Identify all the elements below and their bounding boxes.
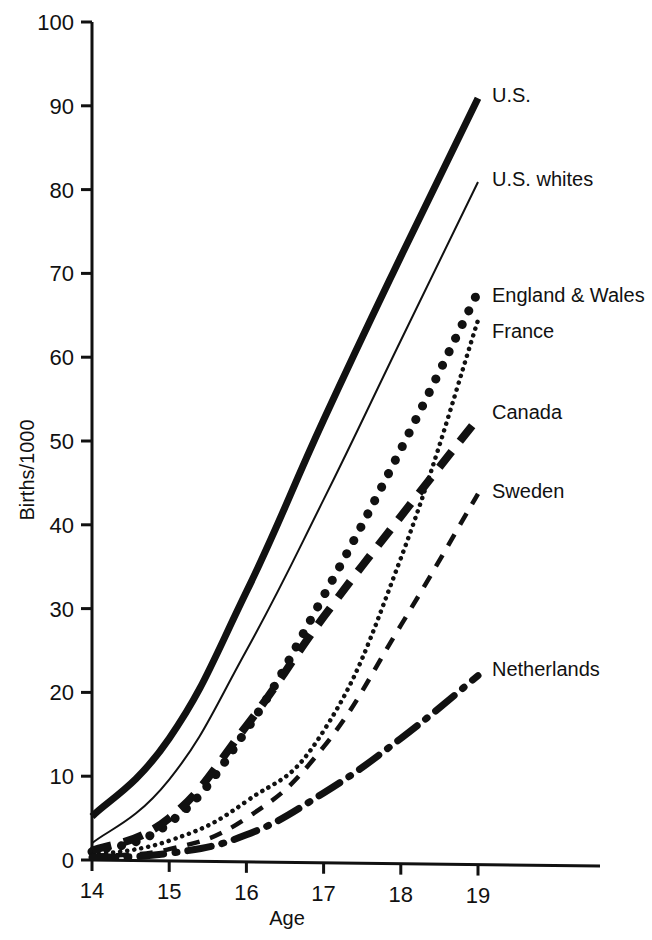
series-labels-group: U.S.U.S. whitesEngland & WalesFranceCana… xyxy=(492,84,645,680)
y-axis-ticks xyxy=(81,22,92,860)
y-tick-label: 50 xyxy=(50,429,74,454)
x-tick-label: 18 xyxy=(389,882,413,907)
y-tick-label: 90 xyxy=(50,94,74,119)
series-line-france xyxy=(92,320,478,855)
y-tick-label: 60 xyxy=(50,345,74,370)
y-tick-label: 40 xyxy=(50,513,74,538)
x-tick-label: 15 xyxy=(157,879,181,904)
series-line-canada xyxy=(92,418,478,850)
series-label-england-wales: England & Wales xyxy=(492,284,645,306)
x-tick-label: 16 xyxy=(234,880,258,905)
chart-figure: 1009080706050403020100 141516171819 Birt… xyxy=(0,0,652,940)
x-tick-label: 14 xyxy=(80,878,104,903)
series-label-sweden: Sweden xyxy=(492,480,564,502)
series-paths-group xyxy=(92,98,478,857)
series-label-canada: Canada xyxy=(492,401,563,423)
series-label-netherlands: Netherlands xyxy=(492,658,600,680)
series-label-u-s: U.S. xyxy=(492,84,531,106)
x-axis-tick-labels: 141516171819 xyxy=(80,878,490,908)
series-line-u-s xyxy=(92,98,478,816)
y-tick-label: 30 xyxy=(50,597,74,622)
x-tick-label: 19 xyxy=(466,883,490,908)
y-tick-label: 100 xyxy=(37,10,74,35)
births-per-1000-by-age-line-chart: 1009080706050403020100 141516171819 Birt… xyxy=(0,0,652,940)
x-tick-label: 17 xyxy=(311,881,335,906)
x-axis-title: Age xyxy=(269,907,305,929)
y-tick-label: 80 xyxy=(50,178,74,203)
y-tick-label: 0 xyxy=(62,848,74,873)
y-tick-label: 10 xyxy=(50,764,74,789)
series-label-france: France xyxy=(492,320,554,342)
y-tick-label: 70 xyxy=(50,261,74,286)
y-axis-title: Births/1000 xyxy=(16,419,38,520)
y-tick-label: 20 xyxy=(50,680,74,705)
y-axis-tick-labels: 1009080706050403020100 xyxy=(37,10,74,873)
series-label-u-s-whites: U.S. whites xyxy=(492,168,593,190)
